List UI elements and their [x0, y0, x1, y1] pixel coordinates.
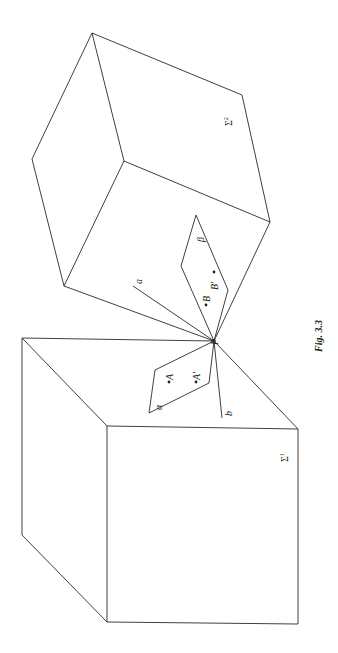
label-beta: β: [195, 237, 206, 243]
label-sigma-1: Σ1: [279, 453, 290, 462]
cube-sigma-2: [32, 33, 270, 341]
cube-sigma-1: [22, 338, 298, 624]
label-A-prime: A′: [191, 371, 202, 381]
label-alpha: α: [153, 404, 164, 410]
point-B-prime: [213, 271, 216, 274]
plane-alpha: [149, 341, 214, 413]
label-b: b: [223, 411, 234, 416]
label-a: a: [133, 279, 144, 284]
point-A: [168, 381, 171, 384]
point-B: [205, 304, 208, 307]
point-A-prime: [195, 381, 198, 384]
label-P: P: [209, 339, 220, 346]
line-b: [214, 341, 222, 418]
label-sigma-2: Σ2: [223, 117, 234, 126]
figure-3-3: P a b β α B B′ A A′ Σ2 Σ1 Fig. 3.3: [0, 0, 338, 653]
label-B-prime: B′: [209, 281, 220, 290]
label-A: A: [164, 373, 175, 381]
plane-beta: [181, 215, 228, 341]
label-B: B: [201, 296, 212, 302]
figure-caption: Fig. 3.3: [313, 320, 324, 353]
